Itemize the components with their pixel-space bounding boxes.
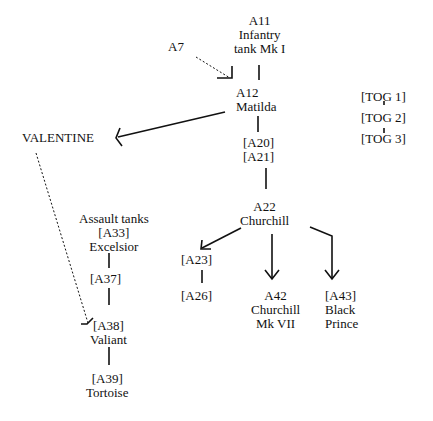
node-a38-name: Valiant [90,333,127,347]
node-a39-name: Tortoise [86,386,128,400]
node-a7: A7 [168,40,184,54]
a22-a43-line [310,227,332,279]
node-a43: [A43] Black Prince [325,289,358,331]
node-a12-name: Matilda [236,100,276,114]
node-a42-code: A42 [251,289,300,303]
node-a20-a21: [A20] [A21] [243,136,274,164]
node-a42-name2: Mk VII [251,317,300,331]
node-a22-name: Churchill [240,214,289,228]
node-a21: [A21] [243,150,274,164]
node-a23: [A23] [181,253,212,267]
node-tog1: [TOG 1] [361,86,406,107]
a22-a23-line [202,228,241,248]
node-a33-name: Excelsior [79,240,149,254]
a12-valentine-line [118,112,225,137]
node-a20: [A20] [243,136,274,150]
node-a12: A12 Matilda [236,86,276,114]
node-a43-name2: Prince [325,317,358,331]
node-tog3: [TOG 3] [361,128,406,149]
node-a22-code: A22 [240,200,289,214]
node-tog2: [TOG 2] [361,107,406,128]
connector-lines [0,0,433,421]
node-a38-code: [A38] [90,319,127,333]
node-a38: [A38] Valiant [90,319,127,347]
node-a26: [A26] [181,289,212,303]
arrowhead-corner-icon [217,66,232,78]
node-a39-code: [A39] [86,372,128,386]
node-a43-name: Black [325,303,358,317]
node-a37: [A37] [90,272,121,286]
node-a12-code: A12 [236,86,276,100]
node-a33-code: [A33] [79,226,149,240]
node-a22: A22 Churchill [240,200,289,228]
node-valentine: VALENTINE [22,131,94,145]
assault-tanks-heading: Assault tanks [79,212,149,226]
node-a11-code: A11 [234,14,285,28]
node-tog: [TOG 1] [TOG 2] [TOG 3] [361,86,406,149]
node-a42: A42 Churchill Mk VII [251,289,300,331]
node-a43-code: [A43] [325,289,358,303]
a7-to-a12-dotted [196,57,230,78]
node-a11: A11 Infantry tank Mk I [234,14,285,56]
node-assault-a33: Assault tanks [A33] Excelsior [79,212,149,254]
node-a42-name: Churchill [251,303,300,317]
node-a11-name: Infantry [234,28,285,42]
node-a39: [A39] Tortoise [86,372,128,400]
node-a11-name2: tank Mk I [234,42,285,56]
